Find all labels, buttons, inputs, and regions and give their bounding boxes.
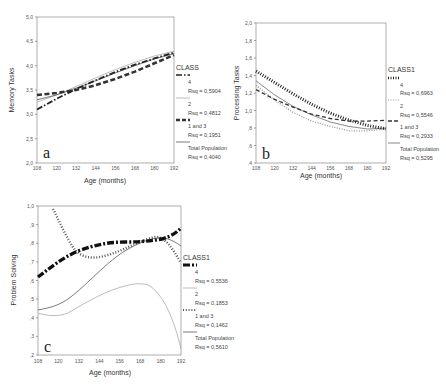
x-tick-label: 156 — [111, 165, 120, 171]
legend-label: Total Population — [195, 335, 234, 341]
legend-rsq: Rsq = 0,4812 — [188, 110, 221, 116]
plot-frame — [38, 206, 181, 355]
plot-frame — [256, 23, 386, 163]
y-tick-label: ,8 — [30, 240, 34, 246]
series-total-population — [256, 81, 386, 129]
panel-label: a — [43, 144, 50, 161]
series-2 — [38, 284, 181, 349]
legend-rsq: Rsq = 0,5904 — [188, 88, 221, 94]
x-ticks: 108 120 132 144 156 168 180 192 — [252, 165, 391, 171]
y-axis-label: Problem Solving — [10, 254, 18, 305]
legend-label: 4 — [400, 82, 403, 88]
legend-rsq: Rsq = 0,2933 — [400, 133, 433, 139]
legend-title: CLASS — [176, 64, 199, 71]
series-total-population — [37, 54, 174, 100]
x-tick-label: 132 — [72, 165, 81, 171]
x-tick-label: 180 — [150, 165, 159, 171]
y-tick-label: ,9 — [30, 222, 34, 228]
legend-label: Total Population — [400, 146, 439, 152]
y-tick-label: 4,0 — [26, 63, 33, 69]
legend-label: 1 and 3 — [400, 124, 418, 130]
y-ticks: 1,0 ,9 ,8 ,7 ,6 ,5 ,4 ,3 ,2 — [27, 203, 38, 358]
y-ticks: 5,0 4,5 4,0 3,5 3,0 2,5 2,0 — [26, 14, 37, 166]
y-tick-label: ,3 — [30, 333, 34, 339]
legend-label: Total Population — [188, 145, 227, 151]
figure-canvas: 5,0 4,5 4,0 3,5 3,0 2,5 2,0 108 120 132 … — [0, 0, 446, 389]
legend-title: CLASS1 — [388, 66, 415, 73]
x-tick-label: 132 — [75, 358, 84, 364]
panel-label: c — [44, 338, 51, 355]
y-axis-label: Processing Tasks — [233, 65, 241, 120]
x-axis-label: Age (months) — [300, 172, 342, 180]
y-tick-label: 1,6 — [245, 55, 252, 61]
y-ticks: 2,0 1,8 1,6 1,4 1,2 1,0 ,8 ,6 ,4 — [245, 20, 256, 166]
x-ticks: 108 120 132 144 156 168 180 192 — [33, 165, 179, 171]
x-tick-label: 144 — [308, 165, 317, 171]
series-1-and-3 — [256, 90, 386, 122]
x-tick-label: 108 — [33, 165, 42, 171]
legend-rsq: Rsq = 0,6963 — [400, 90, 433, 96]
legend-rsq: Rsq = 0,5536 — [195, 278, 228, 284]
legend-label: 4 — [188, 79, 191, 85]
legend-rsq: Rsq = 0,1951 — [188, 132, 221, 138]
y-tick-label: ,8 — [248, 125, 252, 131]
y-tick-label: ,5 — [30, 296, 34, 302]
y-tick-label: 1,2 — [245, 90, 252, 96]
x-tick-label: 108 — [252, 165, 261, 171]
y-tick-label: 5,0 — [26, 14, 33, 20]
y-tick-label: 4,5 — [26, 38, 33, 44]
chart-b: 2,0 1,8 1,6 1,4 1,2 1,0 ,8 ,6 ,4 108 120… — [233, 20, 439, 180]
y-tick-label: ,6 — [248, 143, 252, 149]
legend-rsq: Rsq = 0,5610 — [195, 344, 228, 350]
series-total-population — [38, 238, 181, 310]
x-tick-label: 120 — [54, 358, 63, 364]
x-tick-label: 132 — [289, 165, 298, 171]
x-tick-label: 168 — [131, 165, 140, 171]
x-tick-label: 180 — [363, 165, 372, 171]
y-tick-label: 3,0 — [26, 111, 33, 117]
legend-label: 1 and 3 — [195, 313, 213, 319]
y-tick-label: 2,5 — [26, 136, 33, 142]
x-tick-label: 156 — [116, 358, 125, 364]
x-tick-label: 192 — [382, 165, 391, 171]
legend: CLASS1 4 Rsq = 0,6963 2 Rsq = 0,5546 1 a… — [388, 66, 439, 161]
x-tick-label: 180 — [156, 358, 165, 364]
x-tick-label: 144 — [92, 165, 101, 171]
x-axis-label: Age (months) — [84, 177, 126, 185]
y-tick-label: 2,0 — [245, 20, 252, 26]
legend: CLASS1 4 Rsq = 0,5536 2 Rsq = 0,1853 1 a… — [183, 254, 234, 350]
series-4 — [38, 228, 181, 277]
x-tick-label: 156 — [326, 165, 335, 171]
panel-label: b — [262, 145, 270, 162]
x-tick-label: 192 — [170, 165, 179, 171]
x-tick-label: 168 — [136, 358, 145, 364]
legend-rsq: Rsq = 0,5546 — [400, 112, 433, 118]
series-1-and-3 — [37, 55, 174, 95]
y-tick-label: ,6 — [30, 278, 34, 284]
x-tick-label: 108 — [34, 358, 43, 364]
legend-rsq: Rsq = 0,1853 — [195, 300, 228, 306]
legend-label: 1 and 3 — [188, 123, 206, 129]
legend-title: CLASS1 — [183, 254, 210, 261]
plot-frame — [37, 17, 174, 163]
y-tick-label: 3,5 — [26, 87, 33, 93]
x-tick-label: 120 — [270, 165, 279, 171]
x-tick-label: 144 — [95, 358, 104, 364]
legend-rsq: Rsq = 0,1462 — [195, 322, 228, 328]
y-tick-label: 1,0 — [245, 108, 252, 114]
y-tick-label: ,7 — [30, 259, 34, 265]
legend-rsq: Rsq = 0,4040 — [188, 154, 221, 160]
y-axis-label: Memory Tasks — [8, 67, 16, 112]
legend-rsq: Rsq = 0,5295 — [400, 155, 433, 161]
x-tick-label: 168 — [345, 165, 354, 171]
series-2 — [256, 85, 386, 131]
legend-label: 4 — [195, 269, 198, 275]
chart-a: 5,0 4,5 4,0 3,5 3,0 2,5 2,0 108 120 132 … — [8, 14, 227, 185]
legend-label: 2 — [188, 101, 191, 107]
legend-label: 2 — [195, 291, 198, 297]
legend-label: 2 — [400, 103, 403, 109]
y-tick-label: ,4 — [30, 315, 34, 321]
chart-c: 1,0 ,9 ,8 ,7 ,6 ,5 ,4 ,3 ,2 108 120 132 … — [10, 203, 234, 377]
legend: CLASS 4 Rsq = 0,5904 2 Rsq = 0,4812 1 an… — [176, 64, 227, 160]
y-tick-label: 1,8 — [245, 38, 252, 44]
